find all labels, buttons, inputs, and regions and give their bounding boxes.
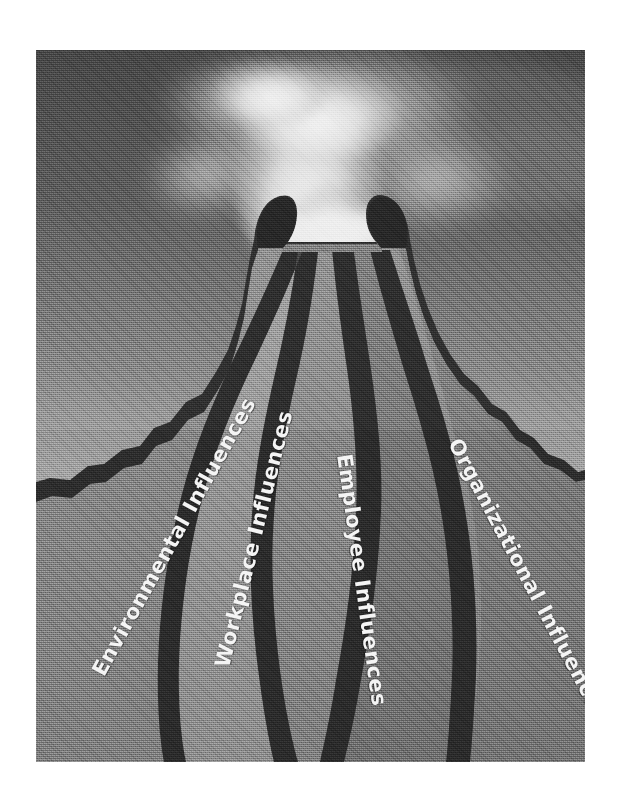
- figure-canvas: Environmental Influences Workplace Influ…: [0, 0, 619, 812]
- crater-floor: [282, 244, 382, 252]
- volcano-photo: Environmental Influences Workplace Influ…: [36, 50, 585, 762]
- cone-vignette: [36, 430, 585, 762]
